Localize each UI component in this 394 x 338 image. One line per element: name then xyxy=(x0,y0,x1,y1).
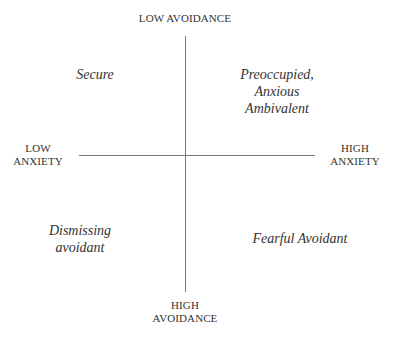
axis-label-line: HIGH xyxy=(135,299,235,312)
quadrant-label-line: Fearful Avoidant xyxy=(230,230,370,247)
quadrant-fearful-avoidant: Fearful Avoidant xyxy=(230,230,370,247)
axis-label-text: LOW AVOIDANCE xyxy=(139,12,231,24)
quadrant-label-line: Preoccupied, xyxy=(222,66,332,83)
axis-label-high-avoidance: HIGH AVOIDANCE xyxy=(135,299,235,325)
quadrant-label-line: Ambivalent xyxy=(222,100,332,117)
quadrant-label-line: Secure xyxy=(55,66,135,83)
quadrant-dismissing-avoidant: Dismissing avoidant xyxy=(35,222,125,256)
axis-label-line: ANXIETY xyxy=(8,155,68,168)
axis-label-line: ANXIETY xyxy=(322,155,388,168)
axis-label-line: HIGH xyxy=(322,142,388,155)
axis-label-high-anxiety: HIGH ANXIETY xyxy=(322,142,388,168)
axis-label-low-anxiety: LOW ANXIETY xyxy=(8,142,68,168)
axis-label-low-avoidance: LOW AVOIDANCE xyxy=(120,12,250,25)
axis-label-line: LOW xyxy=(8,142,68,155)
quadrant-label-line: avoidant xyxy=(35,239,125,256)
quadrant-preoccupied: Preoccupied, Anxious Ambivalent xyxy=(222,66,332,117)
quadrant-label-line: Anxious xyxy=(222,83,332,100)
horizontal-axis-anxiety xyxy=(79,155,315,156)
vertical-axis-avoidance xyxy=(185,36,186,292)
axis-label-line: AVOIDANCE xyxy=(135,312,235,325)
quadrant-secure: Secure xyxy=(55,66,135,83)
quadrant-label-line: Dismissing xyxy=(35,222,125,239)
